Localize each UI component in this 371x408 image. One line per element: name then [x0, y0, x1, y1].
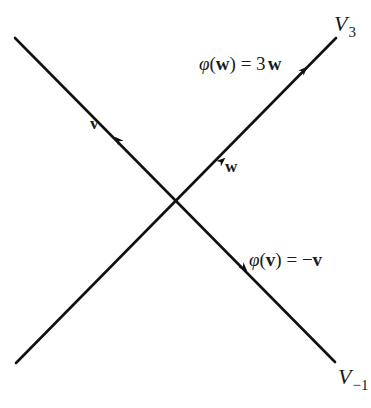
label-v3: V3: [334, 11, 356, 40]
eigenspace-diagram: V3 V−1 φ(w) = 3w φ(v) = −v v w: [0, 0, 371, 408]
equation-phi-v: φ(v) = −v: [249, 249, 323, 271]
label-vector-v: v: [90, 114, 99, 133]
label-vector-w: w: [225, 157, 238, 176]
label-v-minus-1: V−1: [338, 364, 368, 393]
equation-phi-w: φ(w) = 3w: [199, 53, 282, 75]
